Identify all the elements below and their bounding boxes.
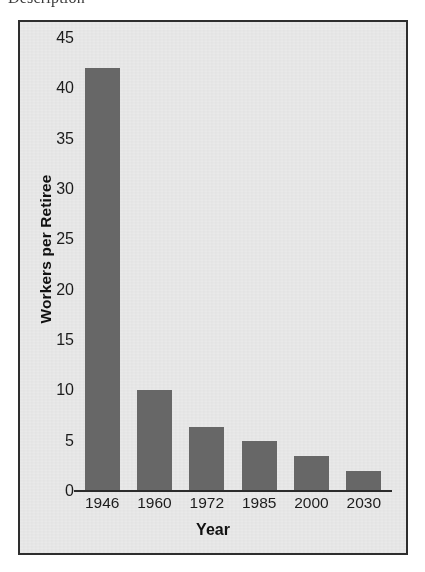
- x-tick-label: 1972: [181, 494, 233, 512]
- y-tick-label: 40: [38, 80, 74, 96]
- clipped-caption-text: Description: [8, 0, 85, 7]
- bar: [242, 441, 277, 491]
- bar-series: [76, 38, 390, 491]
- y-tick-label: 15: [38, 332, 74, 348]
- x-axis-tick-labels: 194619601972198520002030: [76, 494, 390, 518]
- y-tick-label: 20: [38, 282, 74, 298]
- bar: [137, 390, 172, 491]
- y-tick-label: 35: [38, 131, 74, 147]
- x-tick-label: 1960: [128, 494, 180, 512]
- x-tick-label: 2030: [338, 494, 390, 512]
- x-tick-label: 1985: [233, 494, 285, 512]
- x-axis-title: Year: [20, 521, 406, 539]
- chart-figure-frame: Workers per Retiree 051015202530354045 1…: [18, 20, 408, 555]
- x-axis-line: [74, 490, 392, 492]
- y-tick-label: 10: [38, 382, 74, 398]
- y-tick-label: 45: [38, 30, 74, 46]
- y-tick-label: 0: [38, 483, 74, 499]
- bar: [189, 427, 224, 491]
- x-tick-label: 1946: [76, 494, 128, 512]
- y-tick-label: 30: [38, 181, 74, 197]
- bar: [346, 471, 381, 491]
- bar: [294, 456, 329, 491]
- bar: [85, 68, 120, 491]
- clipped-caption-strip: Description: [0, 0, 425, 14]
- y-axis-tick-labels: 051015202530354045: [38, 38, 74, 493]
- x-tick-label: 2000: [285, 494, 337, 512]
- y-tick-label: 25: [38, 231, 74, 247]
- y-tick-label: 5: [38, 433, 74, 449]
